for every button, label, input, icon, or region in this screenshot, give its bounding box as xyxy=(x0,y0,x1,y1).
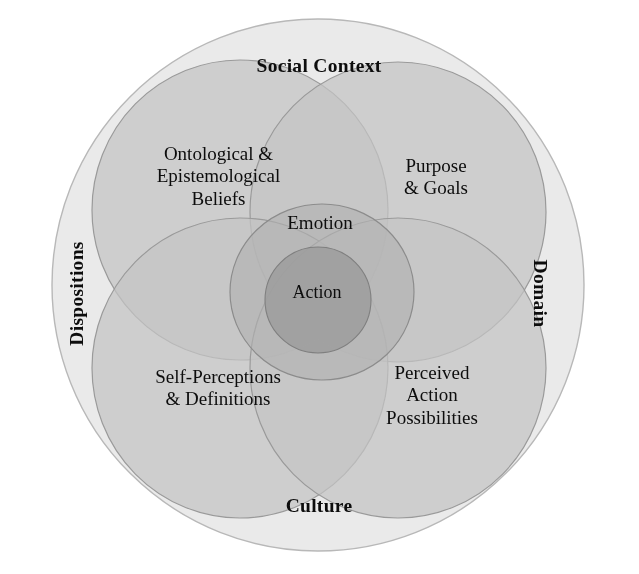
outer-label-culture: Culture xyxy=(229,494,409,517)
core-label-action: Action xyxy=(257,282,377,303)
outer-label-social-context: Social Context xyxy=(179,54,459,77)
outer-label-domain: Domain xyxy=(529,206,552,381)
lobe-label-perceived-action: Perceived Action Possibilities xyxy=(352,362,512,429)
lobe-label-ontological: Ontological & Epistemological Beliefs xyxy=(111,143,326,210)
lobe-label-self-perception: Self-Perceptions & Definitions xyxy=(112,366,324,411)
venn-diagram: Social Context Culture Dispositions Doma… xyxy=(0,0,639,574)
core-label-emotion: Emotion xyxy=(250,212,390,234)
lobe-label-purpose: Purpose & Goals xyxy=(366,155,506,200)
outer-label-dispositions: Dispositions xyxy=(65,206,88,381)
